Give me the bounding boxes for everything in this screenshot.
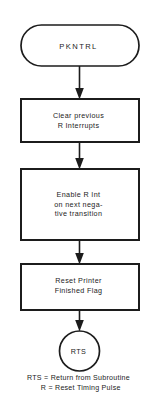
- connector-enable-to-reset-arrowhead: [75, 253, 84, 265]
- connector-clear-to-enable-arrowhead: [75, 158, 84, 170]
- node-end-shape: [60, 331, 100, 371]
- legend-item-rts: RTS = Return from Subroutine: [0, 374, 157, 384]
- node-reset-flag-shape: [21, 264, 139, 310]
- node-enable-interrupt-shape: [21, 169, 139, 240]
- node-clear-interrupts-shape: [21, 99, 139, 142]
- flowchart: PKNTRL Clear previous R Interrupts Enabl…: [0, 0, 157, 406]
- connector-start-to-clear-arrowhead: [75, 88, 84, 100]
- node-start-shape: [21, 25, 139, 66]
- legend-item-r: R = Reset Timing Pulse: [0, 384, 157, 394]
- flowchart-canvas: [0, 0, 157, 406]
- legend: RTS = Return from Subroutine R = Reset T…: [0, 374, 157, 394]
- connector-reset-to-end-arrowhead: [75, 320, 84, 332]
